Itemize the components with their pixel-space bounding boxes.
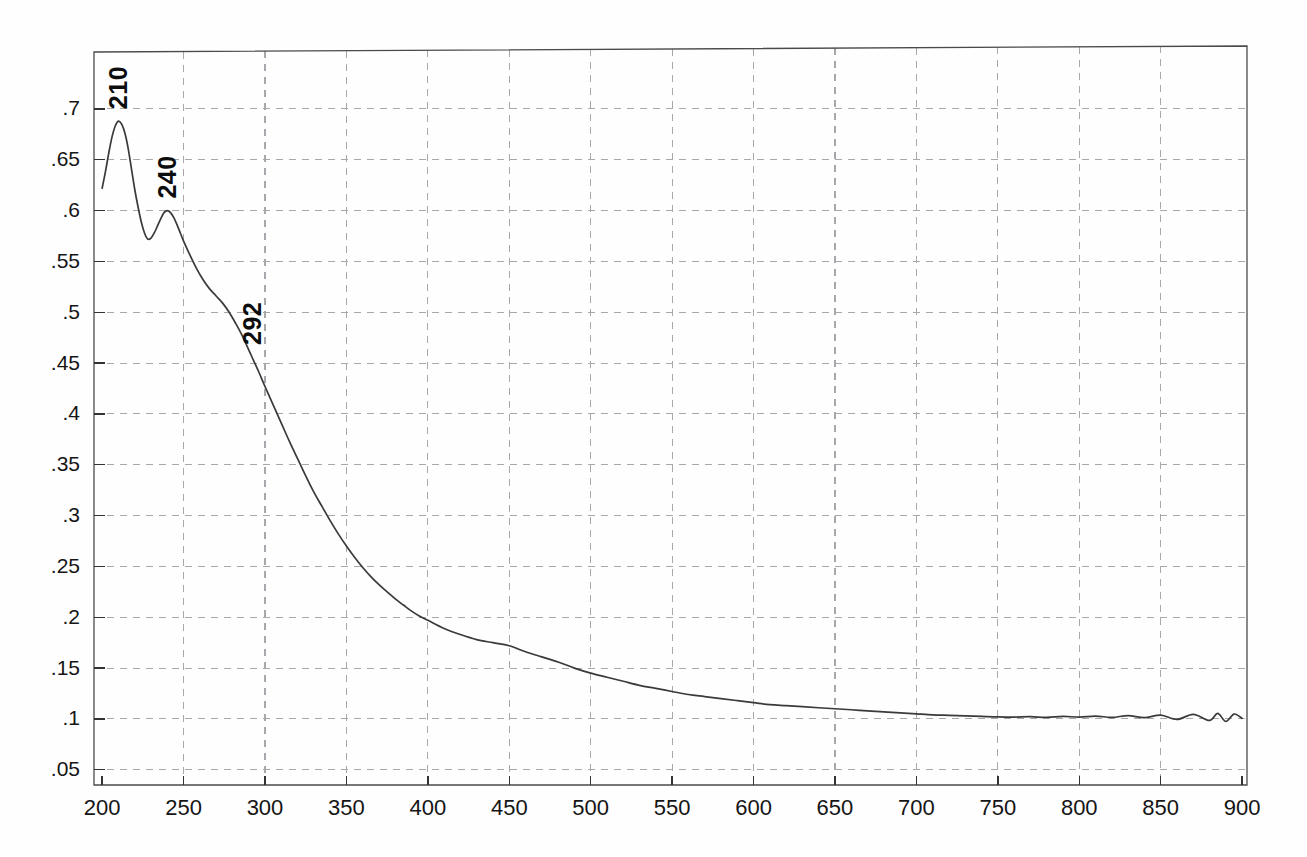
peak-annotation-layer: 210240292 — [104, 66, 266, 345]
plot-frame — [94, 46, 1247, 785]
x-tick-label: 850 — [1142, 795, 1179, 820]
y-tick-label: .35 — [51, 452, 80, 475]
x-tick-label: 500 — [572, 795, 609, 820]
peak-label-210: 210 — [104, 66, 132, 109]
x-tick-label: 400 — [409, 795, 446, 820]
x-tick-label: 300 — [247, 795, 284, 820]
peak-label-292: 292 — [238, 302, 266, 345]
y-tick-label: .25 — [51, 554, 80, 577]
y-tick-label: .3 — [62, 503, 80, 526]
y-tick-label: .45 — [51, 351, 80, 374]
y-axis-tick-labels: .05.1.15.2.25.3.35.4.45.5.55.6.65.7 — [51, 96, 81, 780]
y-tick-label: .4 — [62, 401, 80, 424]
y-tick-label: .55 — [51, 249, 80, 272]
x-tick-label: 250 — [165, 795, 202, 820]
y-tick-label: .5 — [62, 300, 80, 323]
x-tick-label: 550 — [654, 795, 691, 820]
x-tick-label: 800 — [1061, 795, 1098, 820]
x-tick-label: 600 — [735, 795, 772, 820]
peak-label-240: 240 — [153, 155, 181, 198]
x-tick-label: 650 — [817, 795, 854, 820]
plot-canvas: .05.1.15.2.25.3.35.4.45.5.55.6.65.7 2002… — [0, 0, 1307, 857]
y-tick-label: .2 — [62, 605, 80, 628]
y-tick-label: .1 — [62, 706, 80, 729]
x-tick-label: 450 — [491, 795, 528, 820]
x-tick-label: 700 — [898, 795, 935, 820]
grid-layer — [94, 46, 1247, 785]
x-tick-label: 750 — [979, 795, 1016, 820]
spectrum-chart: .05.1.15.2.25.3.35.4.45.5.55.6.65.7 2002… — [0, 0, 1307, 857]
y-tick-label: .05 — [51, 757, 80, 780]
x-tick-label: 350 — [328, 795, 365, 820]
y-tick-label: .15 — [51, 656, 80, 679]
x-tick-label: 900 — [1224, 795, 1261, 820]
y-tick-label: .65 — [51, 147, 80, 170]
x-axis-tick-labels: 2002503003504004505005506006507007508008… — [84, 795, 1261, 820]
plot-border — [94, 46, 1247, 785]
y-tick-label: .7 — [62, 96, 80, 119]
y-tick-label: .6 — [62, 198, 80, 221]
x-tick-label: 200 — [84, 795, 121, 820]
